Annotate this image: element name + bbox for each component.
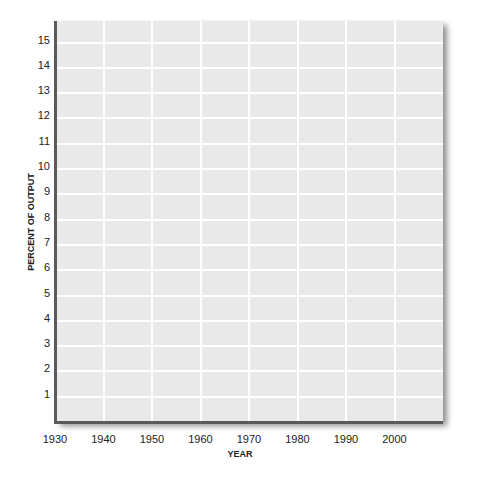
- chart: 123456789101112131415 193019401950196019…: [0, 0, 477, 478]
- h-gridline: [57, 396, 443, 398]
- x-tick-label: 1930: [35, 433, 75, 445]
- h-gridline: [57, 143, 443, 145]
- y-tick-label: 3: [20, 337, 50, 349]
- h-gridline: [57, 92, 443, 94]
- v-gridline: [345, 21, 347, 421]
- y-axis-line: [54, 21, 57, 424]
- v-gridline: [248, 21, 250, 421]
- x-tick-label: 1970: [229, 433, 269, 445]
- x-tick-label: 1980: [278, 433, 318, 445]
- h-gridline: [57, 42, 443, 44]
- h-gridline: [57, 67, 443, 69]
- y-tick-label: 10: [20, 160, 50, 172]
- y-tick-label: 14: [20, 59, 50, 71]
- y-tick-label: 15: [20, 34, 50, 46]
- x-axis-label: YEAR: [210, 449, 270, 459]
- x-tick-label: 1960: [181, 433, 221, 445]
- y-tick-label: 1: [20, 388, 50, 400]
- y-tick-label: 4: [20, 312, 50, 324]
- y-tick-label: 2: [20, 362, 50, 374]
- x-tick-label: 1940: [84, 433, 124, 445]
- v-gridline: [297, 21, 299, 421]
- v-gridline: [151, 21, 153, 421]
- x-tick-label: 1950: [132, 433, 172, 445]
- y-tick-label: 11: [20, 135, 50, 147]
- h-gridline: [57, 345, 443, 347]
- v-gridline: [200, 21, 202, 421]
- x-tick-label: 2000: [375, 433, 415, 445]
- y-tick-label: 5: [20, 287, 50, 299]
- v-gridline: [394, 21, 396, 421]
- h-gridline: [57, 320, 443, 322]
- v-gridline: [103, 21, 105, 421]
- h-gridline: [57, 117, 443, 119]
- h-gridline: [57, 244, 443, 246]
- x-axis-line: [54, 421, 443, 424]
- h-gridline: [57, 269, 443, 271]
- h-gridline: [57, 193, 443, 195]
- h-gridline: [57, 295, 443, 297]
- y-tick-label: 12: [20, 109, 50, 121]
- y-axis-label: PERCENT OF OUTPUT: [26, 173, 36, 271]
- h-gridline: [57, 219, 443, 221]
- x-tick-label: 1990: [326, 433, 366, 445]
- y-tick-label: 13: [20, 84, 50, 96]
- h-gridline: [57, 370, 443, 372]
- h-gridline: [57, 168, 443, 170]
